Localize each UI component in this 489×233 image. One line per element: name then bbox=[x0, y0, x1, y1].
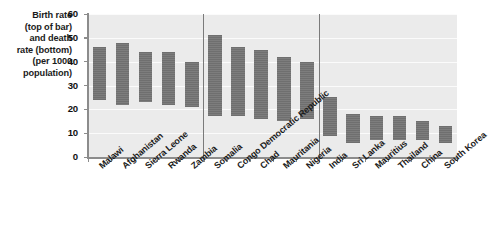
y-tick-60 bbox=[84, 14, 88, 15]
bar-chad bbox=[254, 50, 268, 119]
x-tick-0 bbox=[88, 158, 89, 162]
group-separator-2 bbox=[319, 14, 320, 157]
bar-somalia bbox=[208, 35, 222, 116]
y-tick-label-40: 40 bbox=[56, 56, 78, 67]
bar-thailand bbox=[393, 116, 407, 140]
bar-sri-lanka bbox=[346, 114, 360, 143]
y-tick-30 bbox=[84, 85, 88, 86]
y-axis-caption-line-4: rate (bottom) bbox=[4, 45, 72, 57]
y-tick-10 bbox=[84, 133, 88, 134]
y-axis-caption-line-6: population) bbox=[4, 68, 72, 80]
y-axis-caption: Birth rate (top of bar) and death rate (… bbox=[4, 10, 72, 80]
bar-afghanistan bbox=[116, 43, 130, 105]
bar-malawi bbox=[93, 47, 107, 99]
y-tick-label-10: 10 bbox=[56, 127, 78, 138]
y-tick-label-0: 0 bbox=[56, 151, 78, 162]
gridline-60 bbox=[88, 14, 457, 15]
group-separator-1 bbox=[203, 14, 204, 157]
bar-south-korea bbox=[439, 126, 453, 143]
y-tick-50 bbox=[84, 37, 88, 38]
y-tick-label-20: 20 bbox=[56, 103, 78, 114]
gridline-50 bbox=[88, 38, 457, 39]
bar-mauritania bbox=[277, 57, 291, 121]
bar-rwanda bbox=[162, 52, 176, 104]
bar-sierra-leone bbox=[139, 52, 153, 102]
bar-india bbox=[323, 97, 337, 135]
bar-china bbox=[416, 121, 430, 140]
y-tick-label-30: 30 bbox=[56, 80, 78, 91]
bar-congo-democratic-republic bbox=[231, 47, 245, 116]
gridline-20 bbox=[88, 109, 457, 110]
bar-mauritius bbox=[370, 116, 384, 140]
y-tick-40 bbox=[84, 61, 88, 62]
y-tick-20 bbox=[84, 109, 88, 110]
y-tick-label-60: 60 bbox=[56, 8, 78, 19]
bar-zambia bbox=[185, 62, 199, 107]
y-tick-label-50: 50 bbox=[56, 32, 78, 43]
